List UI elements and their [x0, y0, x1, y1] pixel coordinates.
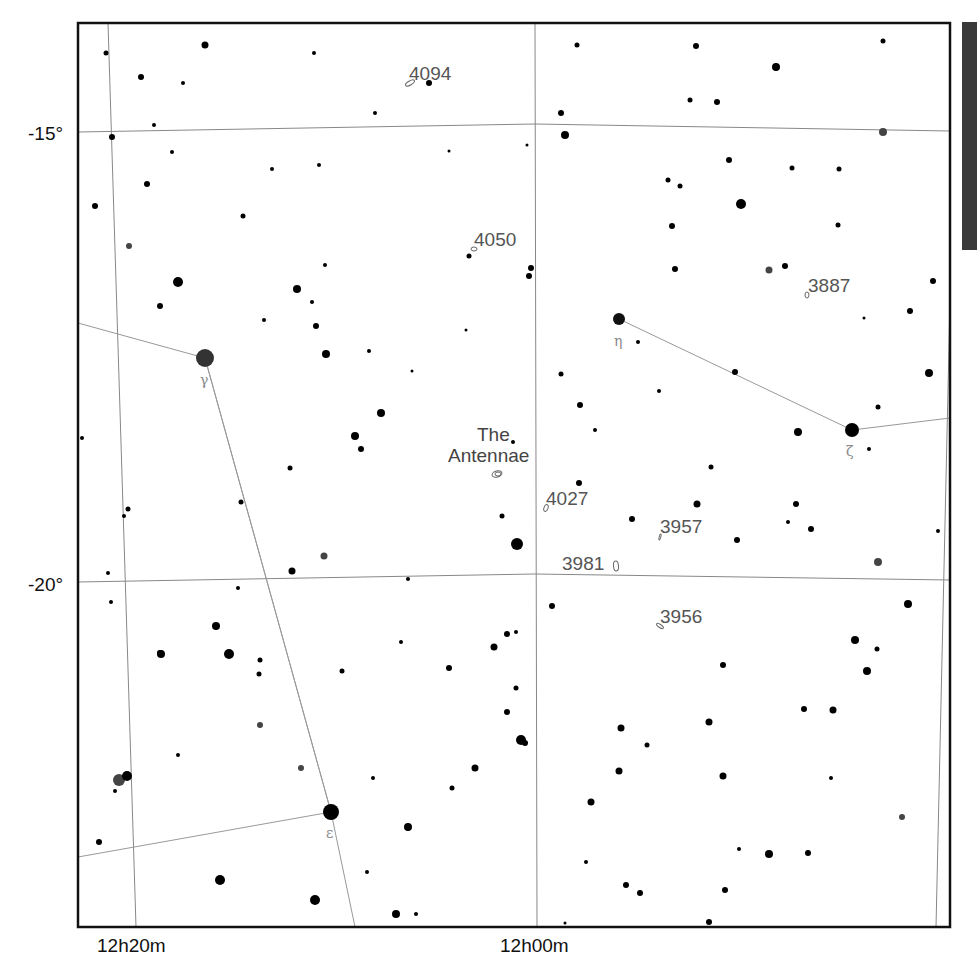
star [693, 43, 699, 49]
star [181, 81, 185, 85]
star [672, 266, 678, 272]
galaxy-label: 3957 [660, 516, 702, 537]
greek-letter-label: η [614, 333, 622, 349]
dec-label-15: -15° [28, 123, 63, 144]
star [549, 603, 555, 609]
star [371, 776, 375, 780]
star [257, 672, 262, 677]
galaxy-label: 4094 [409, 63, 452, 84]
star [907, 308, 913, 314]
star [930, 278, 936, 284]
star [80, 436, 84, 440]
constellation-lines [78, 319, 950, 927]
greek-letter-label: γ [200, 372, 208, 388]
star [446, 665, 452, 671]
star-eta: η [613, 313, 625, 349]
star [559, 372, 564, 377]
galaxy-3887: 3887 [805, 275, 850, 298]
star [202, 42, 209, 49]
star [270, 167, 274, 171]
star [709, 465, 714, 470]
star [317, 163, 321, 167]
star [321, 553, 328, 560]
star [298, 765, 304, 771]
star [720, 773, 727, 780]
star [526, 273, 532, 279]
star [310, 300, 314, 304]
star [170, 150, 174, 154]
star [588, 799, 595, 806]
star [874, 558, 882, 566]
star [399, 640, 403, 644]
star [373, 111, 377, 115]
star [867, 447, 871, 451]
star [404, 823, 412, 831]
star [126, 507, 131, 512]
star [157, 303, 163, 309]
star [122, 514, 126, 518]
star [616, 768, 623, 775]
star [358, 446, 364, 452]
star [138, 74, 144, 80]
star [322, 350, 330, 358]
star [678, 184, 683, 189]
star [157, 650, 163, 656]
galaxy-label: 3956 [660, 606, 702, 627]
grid-line [936, 300, 950, 927]
side-scroll-bar[interactable] [962, 22, 977, 250]
star [657, 389, 661, 393]
antennae-label-line1: The [477, 424, 510, 445]
antennae-label-line2: Antennae [448, 445, 529, 466]
star [377, 409, 385, 417]
star [289, 568, 296, 575]
ra-label-12h00m: 12h00m [500, 935, 569, 956]
star [365, 870, 369, 874]
galaxy-3981: 3981 [562, 553, 619, 574]
galaxy-label: 3981 [562, 553, 604, 574]
star [504, 709, 510, 715]
star [241, 214, 246, 219]
star [720, 662, 726, 668]
star [288, 466, 293, 471]
star [765, 850, 773, 858]
star [92, 203, 98, 209]
star [726, 157, 732, 163]
galaxy-3956: 3956 [656, 606, 702, 630]
star [793, 501, 799, 507]
star [623, 882, 629, 888]
star [152, 123, 156, 127]
star [706, 719, 713, 726]
dec-label-20: -20° [28, 574, 63, 595]
deep-sky-objects-layer: 4094405038874027395739813956 [405, 63, 851, 630]
antennae-label: The Antennae [448, 424, 529, 466]
star [215, 875, 225, 885]
star [936, 529, 940, 533]
star [636, 340, 640, 344]
star [310, 895, 320, 905]
star [863, 317, 866, 320]
star [511, 538, 523, 550]
star [323, 263, 327, 267]
star [262, 318, 266, 322]
star [851, 636, 859, 644]
star-epsilon: ε [323, 804, 339, 841]
star [392, 910, 400, 918]
star [224, 649, 234, 659]
star [176, 753, 180, 757]
star [790, 166, 795, 171]
star [406, 577, 410, 581]
star [879, 128, 887, 136]
star [794, 428, 802, 436]
star [584, 860, 588, 864]
star [522, 740, 528, 746]
chart-frame [78, 23, 950, 927]
coordinate-grid [78, 23, 950, 927]
star [467, 254, 472, 259]
galaxy-label: 4027 [546, 488, 588, 509]
star [737, 847, 741, 851]
star [645, 743, 650, 748]
star [122, 771, 132, 781]
star [829, 776, 833, 780]
star [629, 516, 635, 522]
star [96, 839, 102, 845]
